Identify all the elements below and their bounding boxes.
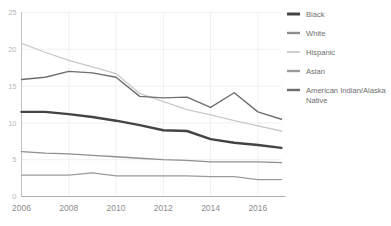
legend-label[interactable]: American Indian/Alaska — [306, 86, 387, 95]
y-tick-label: 20 — [8, 45, 16, 54]
x-tick-label: 2012 — [154, 203, 173, 213]
chart-canvas: 0510152025 200620082010201220142016 Blac… — [0, 0, 391, 226]
legend-label[interactable]: Asian — [306, 67, 325, 76]
legend-label-wrap: Native — [306, 96, 328, 105]
series-line — [22, 43, 282, 131]
legend-label[interactable]: Hispanic — [306, 48, 335, 57]
y-tick-label: 10 — [8, 119, 16, 128]
x-tick-label: 2014 — [201, 203, 220, 213]
y-tick-label: 15 — [8, 82, 16, 91]
x-tick-label: 2010 — [107, 203, 126, 213]
series-line — [22, 173, 282, 180]
series-layer — [22, 43, 282, 179]
series-line — [22, 112, 282, 148]
axis-layer — [22, 13, 286, 197]
x-tick-label: 2006 — [12, 203, 31, 213]
y-tick-label: 5 — [12, 155, 16, 164]
x-tick-label: 2008 — [59, 203, 78, 213]
y-tick-label: 25 — [8, 8, 16, 17]
grid-layer — [22, 13, 282, 197]
xtick-labels: 200620082010201220142016 — [12, 203, 268, 213]
y-tick-label: 0 — [12, 192, 16, 201]
legend-label[interactable]: White — [306, 29, 325, 38]
legend: BlackWhiteHispanicAsianAmerican Indian/A… — [287, 10, 387, 105]
x-tick-label: 2016 — [248, 203, 267, 213]
series-line — [22, 152, 282, 163]
legend-label[interactable]: Black — [306, 10, 325, 19]
series-line — [22, 71, 282, 119]
ytick-labels: 0510152025 — [8, 8, 16, 201]
line-chart: 0510152025 200620082010201220142016 Blac… — [0, 0, 391, 226]
